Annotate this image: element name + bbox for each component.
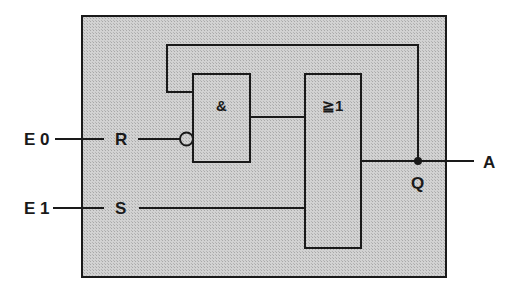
circuit-diagram: & ≧1 E 0 R E 1 S Q A bbox=[0, 0, 521, 293]
pin-label-s: S bbox=[115, 199, 126, 218]
pin-label-r: R bbox=[115, 130, 127, 149]
and-gate-symbol: & bbox=[216, 97, 227, 114]
input-label-e0: E 0 bbox=[24, 130, 50, 149]
or-gate-symbol: ≧1 bbox=[322, 97, 343, 114]
pin-label-q: Q bbox=[411, 174, 424, 193]
input-label-e1: E 1 bbox=[24, 199, 50, 218]
module-box bbox=[82, 16, 446, 277]
output-label-a: A bbox=[483, 153, 495, 172]
inverter-bubble-icon bbox=[180, 133, 193, 146]
and-gate bbox=[193, 74, 250, 162]
junction-dot-icon bbox=[414, 157, 422, 165]
